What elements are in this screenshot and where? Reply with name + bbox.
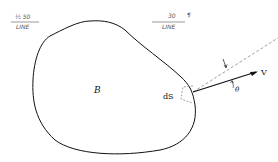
annotation-right-mark: ¶ <box>187 11 191 18</box>
annotation-left-bottom: LINE <box>16 23 30 30</box>
body-label: B <box>93 85 101 95</box>
annotation-right: 30 ¶ LINE <box>152 11 191 30</box>
vector-v-arrowhead <box>250 72 258 77</box>
vector-v-shaft <box>193 72 256 92</box>
normal-dashed-line <box>193 38 278 92</box>
annotation-left-top: ½ 50 <box>15 13 31 20</box>
angle-label: θ <box>235 86 240 94</box>
surface-element-bracket <box>181 86 193 103</box>
body-outline <box>33 21 196 154</box>
annotation-right-top: 30 <box>168 12 176 19</box>
surface-element-label: dS <box>163 92 174 101</box>
vector-label: V <box>260 68 267 77</box>
annotation-left: ½ 50 LINE <box>11 13 39 30</box>
diagram-canvas: ½ 50 LINE 30 ¶ LINE B dS V θ <box>0 0 278 162</box>
annotation-right-bottom: LINE <box>162 23 176 30</box>
